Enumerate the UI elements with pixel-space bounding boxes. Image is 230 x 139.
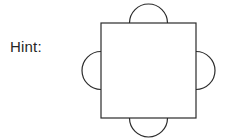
square-outline [101, 23, 196, 118]
square-with-semicircles-group [82, 4, 215, 137]
semicircle-left [82, 52, 101, 90]
semicircle-top [130, 4, 168, 23]
geometry-figure [0, 0, 230, 139]
semicircle-right [196, 52, 215, 90]
semicircle-bottom [130, 118, 168, 137]
hint-figure-panel: Hint: [0, 0, 230, 139]
